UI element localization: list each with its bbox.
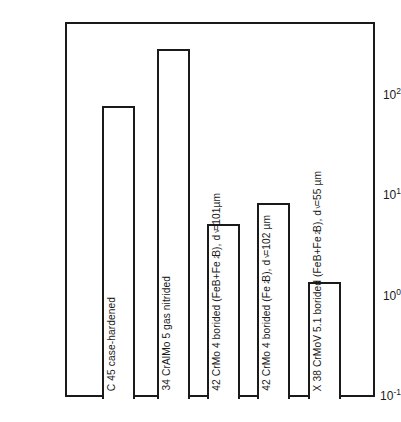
bar-label: C 45 case-hardened xyxy=(107,297,117,391)
bar-label: 34 CrAlMo 5 gas nitrided xyxy=(162,276,172,391)
bar-label: 42 CrMo 4 borided (Fe2B), dv=102 µm xyxy=(262,215,272,391)
chart-figure: Linear wear, µm 10210110010-1 C 45 case-… xyxy=(0,0,401,422)
bar-label: X 38 CrMoV 5.1 borided (FeB+Fe2B), dv=55… xyxy=(313,171,323,391)
bar-label: 42 CrMo 4 borided (FeB+Fe2B), dv=101µm xyxy=(212,193,222,391)
